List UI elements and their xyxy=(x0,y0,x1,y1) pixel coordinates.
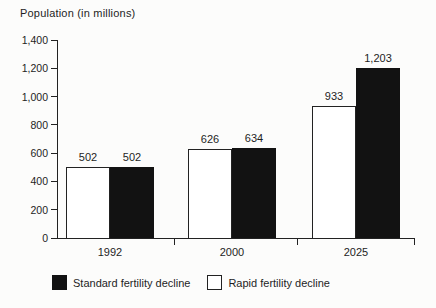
x-axis-tick-1 xyxy=(297,239,298,245)
y-axis-tick-label-1,200: 1,200 xyxy=(22,62,48,74)
x-axis-tick-0 xyxy=(174,239,175,245)
x-axis-category-label-2000: 2000 xyxy=(197,246,267,258)
bar-rapid-2025 xyxy=(312,106,356,238)
bar-standard-2025 xyxy=(356,68,400,238)
x-axis-category-label-2025: 2025 xyxy=(321,246,391,258)
chart-legend: Standard fertility decline Rapid fertili… xyxy=(52,275,330,290)
y-axis-tick-label-0: 0 xyxy=(42,232,48,244)
y-axis-tick-200 xyxy=(51,209,57,210)
bar-value-label-standard-1992: 502 xyxy=(102,151,162,163)
y-axis-tick-label-200: 200 xyxy=(30,204,48,216)
y-axis-tick-label-800: 800 xyxy=(30,119,48,131)
bar-value-label-rapid-2025: 933 xyxy=(304,90,364,102)
y-axis-tick-400 xyxy=(51,181,57,182)
legend-item-standard: Standard fertility decline xyxy=(52,275,190,290)
legend-item-rapid: Rapid fertility decline xyxy=(207,275,330,290)
plot-area: 02004006008001,0001,2001,400199250250220… xyxy=(57,40,415,239)
y-axis-tick-1,400 xyxy=(51,40,57,41)
y-axis-tick-label-1,400: 1,400 xyxy=(22,34,48,46)
standard-fertility-swatch-icon xyxy=(52,275,67,290)
y-axis-tick-600 xyxy=(51,153,57,154)
bar-standard-2000 xyxy=(232,148,276,238)
x-axis-tick-2 xyxy=(414,239,415,245)
chart-title: Population (in millions) xyxy=(20,7,135,19)
x-axis-category-label-1992: 1992 xyxy=(75,246,145,258)
y-axis-tick-0 xyxy=(51,238,57,239)
legend-label-rapid: Rapid fertility decline xyxy=(228,277,330,289)
population-bar-chart-figure: Population (in millions) 02004006008001,… xyxy=(0,0,436,308)
legend-label-standard: Standard fertility decline xyxy=(73,277,190,289)
bar-rapid-1992 xyxy=(66,167,110,238)
bar-value-label-standard-2000: 634 xyxy=(224,132,284,144)
bar-rapid-2000 xyxy=(188,149,232,238)
bar-value-label-standard-2025: 1,203 xyxy=(348,52,408,64)
y-axis-tick-1,000 xyxy=(51,96,57,97)
y-axis-tick-1,200 xyxy=(51,68,57,69)
y-axis-tick-label-1,000: 1,000 xyxy=(22,91,48,103)
y-axis-tick-label-600: 600 xyxy=(30,147,48,159)
bar-standard-1992 xyxy=(110,167,154,238)
y-axis-tick-label-400: 400 xyxy=(30,175,48,187)
y-axis-tick-800 xyxy=(51,124,57,125)
rapid-fertility-swatch-icon xyxy=(207,275,222,290)
